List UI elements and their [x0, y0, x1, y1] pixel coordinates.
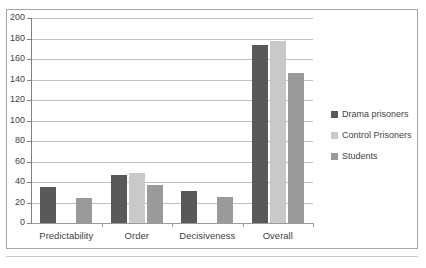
y-tick-label-0: 0 — [1, 218, 25, 227]
y-tick-label-120: 120 — [1, 95, 25, 104]
figure-container: 020406080100120140160180200 Predictabili… — [0, 0, 426, 268]
legend-item[interactable]: Control Prisoners — [331, 127, 417, 143]
bar — [181, 191, 197, 223]
y-tick-label-20: 20 — [1, 198, 25, 207]
legend-item[interactable]: Students — [331, 148, 417, 164]
y-tick-label-40: 40 — [1, 177, 25, 186]
category-label-predictability: Predictability — [31, 230, 102, 241]
y-tick-label-80: 80 — [1, 136, 25, 145]
x-tick-mark-3 — [243, 223, 244, 227]
category-label-overall: Overall — [243, 230, 314, 241]
legend-item-label: Control Prisoners — [342, 130, 412, 140]
bar — [111, 175, 127, 223]
bar — [288, 73, 304, 223]
bar — [40, 187, 56, 223]
legend-swatch-students — [331, 153, 338, 160]
y-tick-label-160: 160 — [1, 54, 25, 63]
y-tick-label-100: 100 — [1, 116, 25, 125]
x-tick-mark-4 — [313, 223, 314, 227]
y-tick-label-60: 60 — [1, 157, 25, 166]
y-axis-tick-labels: 020406080100120140160180200 — [0, 0, 25, 268]
legend-item-label: Students — [342, 151, 378, 161]
bar — [270, 41, 286, 223]
chart-legend: Drama prisonersControl PrisonersStudents — [331, 106, 417, 169]
plot-area — [31, 18, 313, 223]
y-tick-label-200: 200 — [1, 13, 25, 22]
bar — [147, 185, 163, 223]
category-label-order: Order — [102, 230, 173, 241]
legend-item[interactable]: Drama prisoners — [331, 106, 417, 122]
legend-item-label: Drama prisoners — [342, 109, 409, 119]
legend-swatch-control-prisoners — [331, 132, 338, 139]
bar — [129, 173, 145, 223]
x-tick-mark-2 — [172, 223, 173, 227]
y-tick-label-180: 180 — [1, 34, 25, 43]
legend-swatch-drama-prisoners — [331, 111, 338, 118]
bar — [252, 45, 268, 223]
bar — [76, 198, 92, 223]
bar — [217, 197, 233, 223]
caption-separator-rule — [6, 256, 418, 257]
y-tick-label-140: 140 — [1, 75, 25, 84]
x-tick-mark-1 — [102, 223, 103, 227]
category-label-decisiveness: Decisiveness — [172, 230, 243, 241]
